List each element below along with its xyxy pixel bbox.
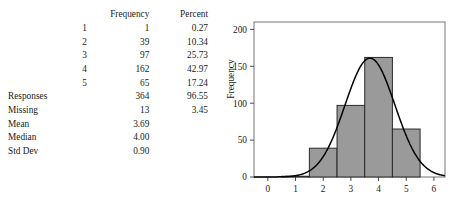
histogram-chart: Frequency 0501001502000123456 <box>200 0 457 210</box>
frequency-table: Frequency Percent 1 1 0.27 2 39 10.34 3 … <box>8 8 208 159</box>
row-frequency: 162 <box>87 63 150 77</box>
row-label: 5 <box>8 76 87 90</box>
row-label: Median <box>8 131 87 145</box>
histogram-bar <box>365 57 393 177</box>
y-tick-label: 50 <box>238 135 248 145</box>
row-frequency: 65 <box>87 76 150 90</box>
x-tick-label: 5 <box>404 184 409 194</box>
x-tick-label: 3 <box>349 184 354 194</box>
x-tick-label: 6 <box>432 184 437 194</box>
column-header-frequency: Frequency <box>87 8 150 22</box>
histogram-bar <box>309 148 337 177</box>
row-frequency: 3.69 <box>87 118 150 132</box>
row-label: Std Dev <box>8 145 87 159</box>
x-tick-label: 4 <box>376 184 381 194</box>
row-frequency: 4.00 <box>87 131 150 145</box>
column-header-category <box>8 8 87 22</box>
row-label: 2 <box>8 35 87 49</box>
table-header: Frequency Percent <box>8 8 208 22</box>
row-frequency: 13 <box>87 104 150 118</box>
table-row: Median 4.00 <box>8 131 208 145</box>
y-tick-label: 200 <box>233 25 247 35</box>
row-label: Responses <box>8 90 87 104</box>
x-tick-label: 2 <box>321 184 326 194</box>
y-tick-label: 150 <box>233 62 247 72</box>
table-row: 5 65 17.24 <box>8 76 208 90</box>
row-label: Missing <box>8 104 87 118</box>
figure-container: Frequency Percent 1 1 0.27 2 39 10.34 3 … <box>0 0 457 210</box>
x-tick-label: 1 <box>293 184 298 194</box>
row-label: Mean <box>8 118 87 132</box>
row-frequency: 97 <box>87 49 150 63</box>
row-label: 3 <box>8 49 87 63</box>
table-row: 2 39 10.34 <box>8 35 208 49</box>
table-row: 1 1 0.27 <box>8 22 208 36</box>
table-row: Std Dev 0.90 <box>8 145 208 159</box>
row-label: 4 <box>8 63 87 77</box>
table-row: Mean 3.69 <box>8 118 208 132</box>
table-row: Missing 13 3.45 <box>8 104 208 118</box>
y-tick-label: 100 <box>233 99 247 109</box>
table-row: Responses 364 96.55 <box>8 90 208 104</box>
y-tick-label: 0 <box>242 172 247 182</box>
row-frequency: 1 <box>87 22 150 36</box>
row-frequency: 364 <box>87 90 150 104</box>
table-body: 1 1 0.27 2 39 10.34 3 97 25.73 4 162 42.… <box>8 22 208 159</box>
x-tick-label: 0 <box>266 184 271 194</box>
table-row: 4 162 42.97 <box>8 63 208 77</box>
table-header-row: Frequency Percent <box>8 8 208 22</box>
table-row: 3 97 25.73 <box>8 49 208 63</box>
row-frequency: 39 <box>87 35 150 49</box>
row-frequency: 0.90 <box>87 145 150 159</box>
plot-area: 0501001502000123456 <box>200 0 457 210</box>
row-label: 1 <box>8 22 87 36</box>
